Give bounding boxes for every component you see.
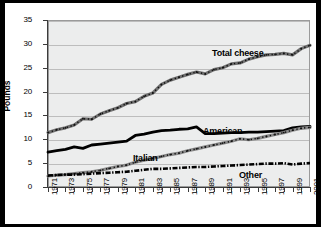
x-axis-tick-label: 1985 <box>173 178 181 195</box>
series-label-american: American <box>203 126 242 136</box>
y-axis-tick-label: 5 <box>28 159 32 167</box>
y-axis-tick <box>43 115 48 116</box>
chart-figure: 05101520253035 Pounds 197119731975197719… <box>0 0 321 227</box>
x-axis-tick <box>258 188 259 192</box>
x-axis-tick-label: 1973 <box>68 178 76 195</box>
x-axis-tick-label: 1979 <box>121 178 129 195</box>
x-axis-tick-label: 1971 <box>51 178 59 195</box>
y-axis-tick-label: 30 <box>24 40 33 48</box>
x-axis-tick <box>231 188 232 192</box>
x-axis-tick-label: 1997 <box>278 178 286 195</box>
y-axis-tick <box>43 68 48 69</box>
gridline <box>49 93 309 94</box>
y-axis-tick <box>43 44 48 45</box>
series-label-other: Other <box>239 170 262 180</box>
y-axis-tick-label: 15 <box>24 111 33 119</box>
x-axis-tick <box>92 188 93 192</box>
x-axis-tick <box>179 188 180 192</box>
x-axis-tick <box>153 188 154 192</box>
x-axis-tick <box>310 188 311 192</box>
y-axis-tick <box>43 92 48 93</box>
x-axis-tick <box>127 188 128 192</box>
x-axis-tick <box>275 188 276 192</box>
x-axis-tick-label: 1993 <box>243 178 251 195</box>
x-axis-tick <box>57 188 58 192</box>
x-axis-tick <box>188 188 189 192</box>
x-axis-tick <box>249 188 250 192</box>
plot-area <box>48 20 310 187</box>
x-axis-tick <box>196 188 197 192</box>
gridline <box>49 21 309 22</box>
series-label-italian: Italian <box>133 153 158 163</box>
x-axis-tick <box>223 188 224 192</box>
gridline <box>49 69 309 70</box>
x-axis-tick <box>48 188 49 192</box>
x-axis-tick <box>109 188 110 192</box>
y-axis-tick <box>43 139 48 140</box>
x-axis-tick <box>144 188 145 192</box>
y-axis-tick-label: 10 <box>24 135 33 143</box>
x-axis-tick-label: 1991 <box>226 178 234 195</box>
x-axis-tick-label: 1977 <box>103 178 111 195</box>
gridline <box>49 140 309 141</box>
y-axis-tick-label: 35 <box>24 16 33 24</box>
x-axis-tick-label: 1999 <box>296 178 304 195</box>
x-axis-tick-label: 1989 <box>208 178 216 195</box>
x-axis-tick <box>284 188 285 192</box>
x-axis-tick <box>83 188 84 192</box>
x-axis-tick <box>214 188 215 192</box>
x-axis-tick-label: 2001 <box>313 178 321 195</box>
x-axis-tick-label: 1983 <box>156 178 164 195</box>
gridline <box>49 116 309 117</box>
y-axis-title: Pounds <box>2 80 12 111</box>
y-axis-tick-label: 20 <box>24 88 33 96</box>
y-axis-tick <box>43 20 48 21</box>
x-axis-tick-label: 1987 <box>191 178 199 195</box>
x-axis-tick <box>118 188 119 192</box>
x-axis-tick <box>293 188 294 192</box>
x-axis-tick-label: 1995 <box>261 178 269 195</box>
y-axis-tick <box>43 163 48 164</box>
x-axis-tick-label: 1981 <box>138 178 146 195</box>
x-axis-tick <box>74 188 75 192</box>
x-axis-tick <box>301 188 302 192</box>
gridline <box>49 45 309 46</box>
x-axis-tick <box>240 188 241 192</box>
series-label-total-cheese: Total cheese <box>212 48 263 58</box>
y-axis-tick-label: 0 <box>28 183 32 191</box>
y-axis-tick-label: 25 <box>24 64 33 72</box>
gridline <box>49 164 309 165</box>
x-axis-tick <box>266 188 267 192</box>
x-axis-tick-label: 1975 <box>86 178 94 195</box>
x-axis-tick <box>162 188 163 192</box>
